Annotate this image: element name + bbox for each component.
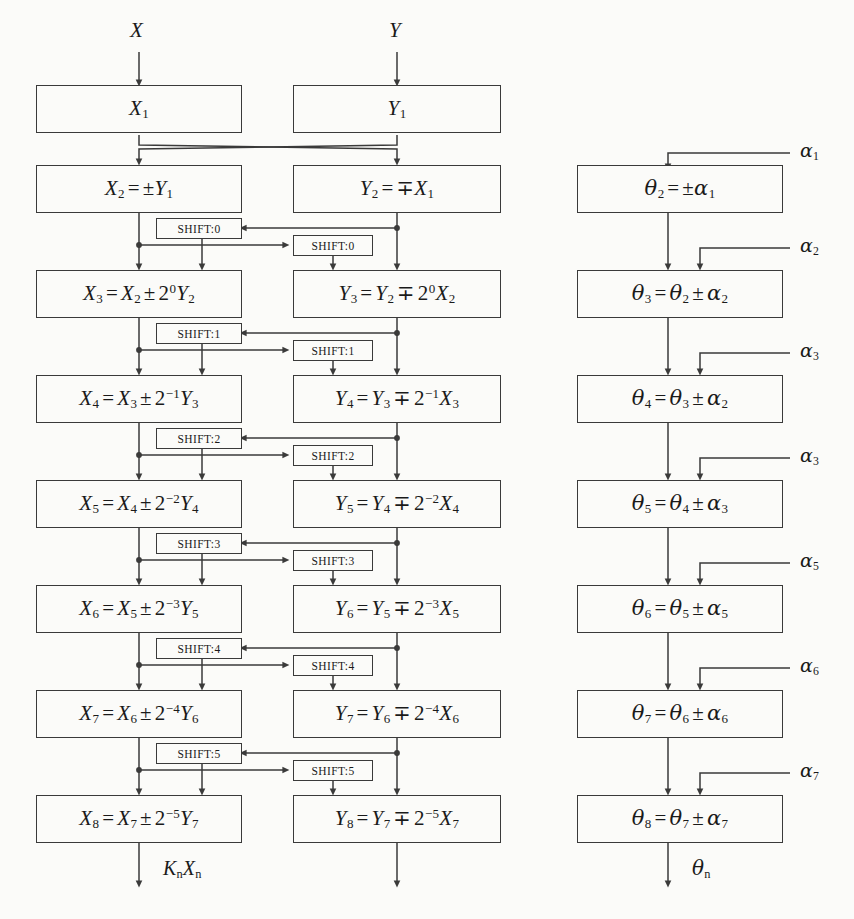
x-stage-box-8[interactable]: X8=X7±2−5Y7 <box>36 795 242 843</box>
x7-formula: X7=X6±2−4Y6 <box>79 701 199 728</box>
y-stage-box-7[interactable]: Y7=Y6∓2−4X6 <box>293 690 501 738</box>
x-stage-box-5[interactable]: X5=X4±2−2Y4 <box>36 480 242 528</box>
wire-layer <box>0 0 854 919</box>
x-stage-box-1[interactable]: X1 <box>36 85 242 133</box>
y8-formula: Y8=Y7∓2−5X7 <box>335 806 460 833</box>
shift-left-1-label: SHIFT:1 <box>177 328 220 340</box>
y1-formula: Y1 <box>388 96 407 123</box>
shift-box-right-5[interactable]: SHIFT:5 <box>293 760 373 781</box>
theta-stage-box-2[interactable]: θ2=±α1 <box>577 165 783 213</box>
alpha-input-label-7: α7 <box>800 761 819 783</box>
x6-formula: X6=X5±2−3Y5 <box>79 596 199 623</box>
t6-formula: θ6=θ5±α5 <box>632 596 729 623</box>
t5-formula: θ5=θ4±α3 <box>632 491 729 518</box>
t2-formula: θ2=±α1 <box>645 176 716 203</box>
alpha-input-label-6: α6 <box>800 656 819 678</box>
shift-right-5-label: SHIFT:5 <box>311 765 354 777</box>
shift-right-1-label: SHIFT:1 <box>311 345 354 357</box>
y5-formula: Y5=Y4∓2−2X4 <box>335 491 460 518</box>
y6-formula: Y6=Y5∓2−3X5 <box>335 596 460 623</box>
x1-formula: X1 <box>129 96 149 123</box>
shift-box-right-4[interactable]: SHIFT:4 <box>293 655 373 676</box>
t8-formula: θ8=θ7±α7 <box>632 806 729 833</box>
shift-right-0-label: SHIFT:0 <box>311 240 354 252</box>
t3-formula: θ3=θ2±α2 <box>632 281 729 308</box>
x4-formula: X4=X3±2−1Y3 <box>79 386 199 413</box>
y2-formula: Y2=∓X1 <box>360 176 435 203</box>
shift-left-2-label: SHIFT:2 <box>177 433 220 445</box>
theta-stage-box-4[interactable]: θ4=θ3±α2 <box>577 375 783 423</box>
y4-formula: Y4=Y3∓2−1X3 <box>335 386 460 413</box>
x-stage-box-7[interactable]: X7=X6±2−4Y6 <box>36 690 242 738</box>
shift-right-4-label: SHIFT:4 <box>311 660 354 672</box>
shift-box-left-4[interactable]: SHIFT:4 <box>156 638 242 659</box>
x5-formula: X5=X4±2−2Y4 <box>79 491 199 518</box>
shift-box-left-3[interactable]: SHIFT:3 <box>156 533 242 554</box>
shift-box-left-2[interactable]: SHIFT:2 <box>156 428 242 449</box>
shift-left-5-label: SHIFT:5 <box>177 748 220 760</box>
y-stage-box-3[interactable]: Y3=Y2∓20X2 <box>293 270 501 318</box>
input-label-x: X <box>130 20 143 41</box>
alpha-input-label-5: α5 <box>800 551 819 573</box>
shift-box-right-3[interactable]: SHIFT:3 <box>293 550 373 571</box>
y-stage-box-8[interactable]: Y8=Y7∓2−5X7 <box>293 795 501 843</box>
shift-left-3-label: SHIFT:3 <box>177 538 220 550</box>
theta-stage-box-7[interactable]: θ7=θ6±α6 <box>577 690 783 738</box>
shift-box-left-1[interactable]: SHIFT:1 <box>156 323 242 344</box>
x-stage-box-2[interactable]: X2=±Y1 <box>36 165 242 213</box>
x3-formula: X3=X2±20Y2 <box>83 281 195 308</box>
diagram-canvas: X Y X1 X2=±Y1 X3=X2±20Y2 X4=X3±2−1Y3 X5=… <box>0 0 854 919</box>
alpha-input-label-3: α3 <box>800 341 819 363</box>
x-stage-box-6[interactable]: X6=X5±2−3Y5 <box>36 585 242 633</box>
shift-left-4-label: SHIFT:4 <box>177 643 220 655</box>
x2-formula: X2=±Y1 <box>105 176 174 203</box>
shift-box-right-2[interactable]: SHIFT:2 <box>293 445 373 466</box>
theta-stage-box-8[interactable]: θ8=θ7±α7 <box>577 795 783 843</box>
theta-stage-box-6[interactable]: θ6=θ5±α5 <box>577 585 783 633</box>
alpha-input-label-2: α2 <box>800 236 819 258</box>
y3-formula: Y3=Y2∓20X2 <box>339 281 456 308</box>
shift-right-2-label: SHIFT:2 <box>311 450 354 462</box>
y-stage-box-5[interactable]: Y5=Y4∓2−2X4 <box>293 480 501 528</box>
t7-formula: θ7=θ6±α6 <box>632 701 729 728</box>
t4-formula: θ4=θ3±α2 <box>632 386 729 413</box>
y-stage-box-6[interactable]: Y6=Y5∓2−3X5 <box>293 585 501 633</box>
shift-right-3-label: SHIFT:3 <box>311 555 354 567</box>
theta-stage-box-5[interactable]: θ5=θ4±α3 <box>577 480 783 528</box>
theta-stage-box-3[interactable]: θ3=θ2±α2 <box>577 270 783 318</box>
shift-box-right-0[interactable]: SHIFT:0 <box>293 235 373 256</box>
alpha-input-label-4: α3 <box>800 446 819 468</box>
output-label-knxn: KnXn <box>163 858 201 881</box>
shift-box-left-5[interactable]: SHIFT:5 <box>156 743 242 764</box>
x-stage-box-4[interactable]: X4=X3±2−1Y3 <box>36 375 242 423</box>
x-stage-box-3[interactable]: X3=X2±20Y2 <box>36 270 242 318</box>
y-stage-box-1[interactable]: Y1 <box>293 85 501 133</box>
input-label-y: Y <box>389 20 401 41</box>
output-label-theta-n: θn <box>692 858 710 881</box>
shift-box-right-1[interactable]: SHIFT:1 <box>293 340 373 361</box>
y-stage-box-4[interactable]: Y4=Y3∓2−1X3 <box>293 375 501 423</box>
alpha-input-label-1: α1 <box>800 141 819 163</box>
shift-left-0-label: SHIFT:0 <box>177 223 220 235</box>
x8-formula: X8=X7±2−5Y7 <box>79 806 199 833</box>
shift-box-left-0[interactable]: SHIFT:0 <box>156 218 242 239</box>
y-stage-box-2[interactable]: Y2=∓X1 <box>293 165 501 213</box>
y7-formula: Y7=Y6∓2−4X6 <box>335 701 460 728</box>
